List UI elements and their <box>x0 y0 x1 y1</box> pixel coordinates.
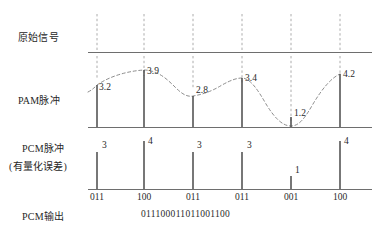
row-label-pcm-output: PCM输出 <box>22 208 64 223</box>
binary-code-1: 011 <box>83 192 111 202</box>
pam-value-6: 4.2 <box>343 69 355 79</box>
pcm-value-6: 4 <box>344 136 349 146</box>
binary-code-2: 100 <box>130 192 158 202</box>
pcm-value-4: 3 <box>247 140 252 150</box>
row-label-pcm-quantization-error: (有量化误差) <box>9 158 67 173</box>
pcm-output-bitstream: 011100011011001100 <box>141 209 230 219</box>
binary-code-6: 100 <box>326 192 354 202</box>
sample-gridlines <box>97 14 340 122</box>
pam-value-3: 2.8 <box>196 85 208 95</box>
pcm-value-2: 4 <box>148 136 153 146</box>
binary-code-3: 011 <box>179 192 207 202</box>
pam-value-4: 3.4 <box>245 73 257 83</box>
row-label-pcm-pulse: PCM脉冲 <box>22 140 64 155</box>
pam-value-2: 3.9 <box>147 66 159 76</box>
pcm-value-3: 3 <box>197 140 202 150</box>
pcm-value-5: 1 <box>295 165 300 175</box>
pcm-value-1: 3 <box>102 140 107 150</box>
binary-code-4: 011 <box>228 192 256 202</box>
binary-code-5: 001 <box>277 192 305 202</box>
pam-value-1: 3.2 <box>99 82 111 92</box>
pcm-pulses <box>97 141 340 189</box>
row-label-pam-pulse: PAM脉冲 <box>18 92 60 107</box>
row-label-original-signal: 原始信号 <box>18 29 59 44</box>
pam-value-5: 1.2 <box>294 108 306 118</box>
